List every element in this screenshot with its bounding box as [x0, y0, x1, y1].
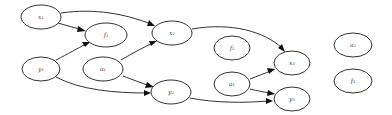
node-f2: f₂	[214, 36, 250, 60]
edge-a1b-x3	[250, 68, 275, 79]
svg-text:x₃: x₃	[289, 59, 295, 66]
svg-text:y₃: y₃	[288, 95, 295, 103]
svg-text:y₂: y₂	[167, 88, 174, 96]
node-x3: x₃	[274, 51, 310, 75]
edge-a1-y2	[123, 76, 154, 88]
svg-text:f₃: f₃	[350, 77, 356, 85]
svg-text:f₁: f₁	[103, 31, 109, 39]
edge-x1-f1	[58, 23, 86, 32]
edge-a1-x2	[121, 41, 157, 60]
edge-a1b-y3	[250, 89, 275, 96]
node-a1: a₁	[83, 57, 123, 81]
node-f1: f₁	[85, 23, 127, 47]
svg-text:a₁: a₁	[100, 65, 106, 72]
edge-y1-f1	[56, 42, 90, 60]
node-y2: y₂	[151, 80, 191, 104]
node-x2: x₂	[152, 21, 192, 45]
node-a2: a₂	[334, 33, 372, 57]
svg-text:f₂: f₂	[229, 44, 235, 52]
node-y3: y₃	[274, 87, 310, 111]
node-f3: f₃	[334, 69, 372, 93]
svg-text:y₁: y₁	[37, 65, 44, 73]
graph-canvas: x₁ f₁ x₂ y₁ a₁ y₂ f₂ a₁ x₃ y₃ a₂ f₃	[0, 0, 392, 115]
svg-text:a₂: a₂	[350, 41, 357, 48]
svg-text:x₁: x₁	[38, 13, 44, 20]
node-x1: x₁	[21, 5, 61, 29]
svg-text:x₂: x₂	[169, 29, 175, 36]
svg-text:a₁: a₁	[229, 80, 235, 87]
edge-y2-y3	[190, 98, 273, 104]
node-y1: y₁	[22, 57, 60, 81]
node-a1-second: a₁	[214, 72, 250, 96]
